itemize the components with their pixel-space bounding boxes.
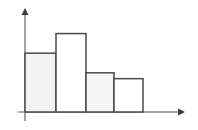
chart-plot-area [0,0,198,130]
histogram-chart [0,0,198,130]
x-axis-arrow-icon [178,109,185,116]
bar-series [25,34,143,112]
bar-4 [114,79,143,112]
bar-2 [56,34,86,112]
y-axis-arrow-icon [22,8,29,15]
bar-3 [86,73,114,112]
bar-1 [25,53,56,112]
